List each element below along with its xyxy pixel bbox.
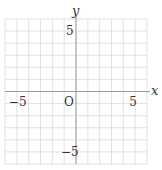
- y-tick-label: −5: [61, 145, 79, 159]
- coordinate-plane: x y O −555−5: [0, 0, 162, 170]
- y-axis-label: y: [71, 3, 80, 18]
- y-tick-label: 5: [66, 24, 74, 38]
- x-tick-label: 5: [129, 95, 137, 109]
- x-tick-label: −5: [9, 95, 27, 109]
- origin-label: O: [64, 95, 74, 109]
- x-axis-label: x: [151, 83, 159, 98]
